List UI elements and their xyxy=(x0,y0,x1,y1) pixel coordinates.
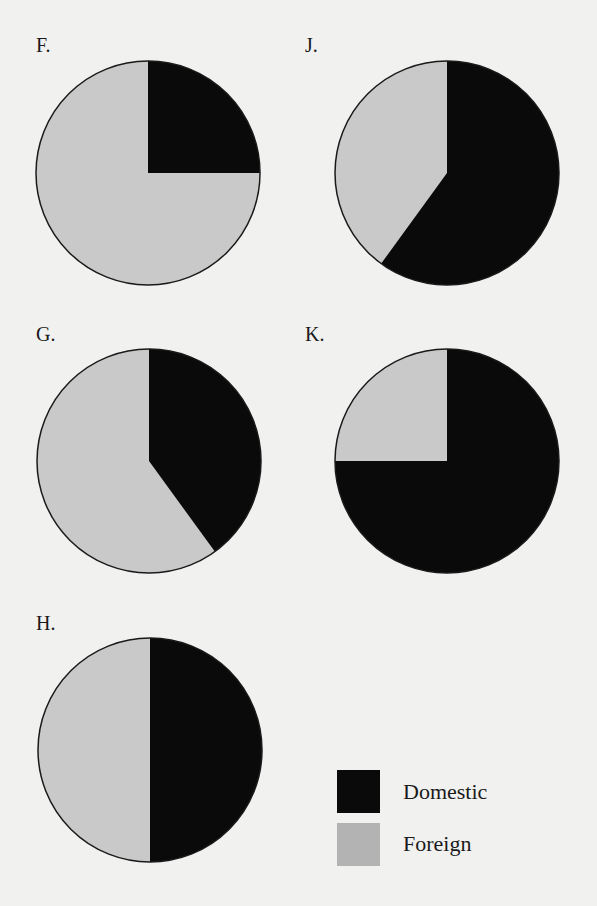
pie-chart-h xyxy=(36,636,264,864)
chart-label-g: G. xyxy=(36,324,55,344)
legend-label-domestic: Domestic xyxy=(403,781,487,803)
chart-label-f: F. xyxy=(36,35,51,55)
pie-slice-domestic xyxy=(148,61,260,173)
pie-chart-f xyxy=(34,59,262,287)
pie-slice-domestic xyxy=(150,638,262,862)
legend-label-foreign: Foreign xyxy=(403,833,471,855)
pie-chart-j xyxy=(333,59,561,287)
chart-label-j: J. xyxy=(305,35,318,55)
legend-swatch-foreign xyxy=(337,823,380,866)
pie-chart-k xyxy=(333,347,561,575)
chart-label-k: K. xyxy=(305,324,324,344)
chart-label-h: H. xyxy=(36,613,55,633)
pie-chart-g xyxy=(35,347,263,575)
legend-swatch-domestic xyxy=(337,770,380,813)
